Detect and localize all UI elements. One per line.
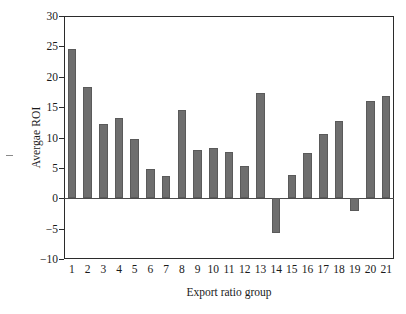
bar — [240, 166, 249, 198]
y-tick-label: −5 — [32, 223, 58, 235]
x-axis-ticks: 123456789101112131415161718192021 — [64, 262, 394, 278]
x-axis-title: Export ratio group — [64, 285, 394, 299]
bar — [303, 153, 312, 198]
y-tick-label: −10 — [32, 254, 58, 266]
bar-series — [64, 16, 394, 259]
bar — [162, 176, 171, 198]
y-tick-mark — [59, 198, 64, 199]
y-tick-label: 25 — [32, 41, 58, 53]
y-tick-label: 5 — [32, 162, 58, 174]
y-tick-mark — [59, 229, 64, 230]
y-tick-mark — [59, 77, 64, 78]
bar — [382, 96, 391, 199]
bar — [68, 49, 77, 198]
y-tick-mark — [59, 46, 64, 47]
bar — [99, 124, 108, 199]
bar — [366, 101, 375, 198]
bar — [83, 87, 92, 198]
bar — [146, 169, 155, 198]
y-tick-label: 0 — [32, 193, 58, 205]
bar — [272, 198, 281, 233]
bar — [335, 121, 344, 198]
y-tick-label: 15 — [32, 102, 58, 114]
y-tick-mark — [59, 107, 64, 108]
chart-figure: Avergae ROI 302520151050−5−10 1234567891… — [0, 0, 406, 314]
bar — [319, 134, 328, 198]
bar — [130, 139, 139, 199]
bar — [256, 93, 265, 198]
y-tick-label: 30 — [32, 11, 58, 23]
y-tick-label: 20 — [32, 71, 58, 83]
y-tick-mark — [59, 16, 64, 17]
bar — [193, 150, 202, 198]
bar — [209, 148, 218, 198]
y-tick-mark — [59, 168, 64, 169]
y-axis-ticks: 302520151050−5−10 — [0, 0, 58, 314]
y-tick-label: 10 — [32, 132, 58, 144]
y-tick-mark — [59, 138, 64, 139]
bar — [225, 152, 234, 198]
y-tick-mark — [59, 259, 64, 260]
x-tick-label: 21 — [375, 262, 397, 276]
bar — [350, 198, 359, 211]
bar — [288, 175, 297, 199]
bar — [178, 110, 187, 198]
bar — [115, 118, 124, 198]
